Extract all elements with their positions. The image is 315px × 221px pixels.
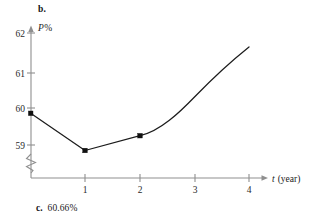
x-tick-label-1: 1 [83, 185, 88, 195]
answer-line: c. 60.66% [36, 203, 77, 213]
y-tick-label-62: 62 [16, 29, 26, 39]
y-axis-arrow-icon [28, 26, 33, 33]
y-axis-label: P% [37, 23, 52, 33]
x-axis-symbol: t [272, 174, 275, 184]
y-tick-label-60: 60 [16, 104, 26, 114]
y-axis-symbol: P [37, 23, 44, 33]
data-point-t0 [28, 111, 33, 116]
x-axis-label: t(year) [272, 174, 300, 185]
x-axis-unit: (year) [278, 174, 301, 185]
plot-area: 62 61 60 59 1 2 3 4 P% t(year) [0, 0, 315, 221]
data-point-t1 [83, 148, 88, 153]
x-axis-arrow-icon [262, 175, 269, 180]
figure-page: b. 62 61 60 59 1 2 3 4 P% t(year) [0, 0, 315, 221]
x-tick-label-4: 4 [247, 185, 252, 195]
answer-value: 60.66% [48, 203, 78, 213]
answer-key: c. [36, 203, 43, 213]
x-tick-label-2: 2 [138, 185, 143, 195]
y-axis-unit: % [44, 23, 52, 33]
x-tick-label-3: 3 [193, 185, 198, 195]
y-tick-label-59: 59 [16, 141, 26, 151]
y-tick-label-61: 61 [16, 69, 26, 79]
data-point-t2 [138, 133, 143, 138]
